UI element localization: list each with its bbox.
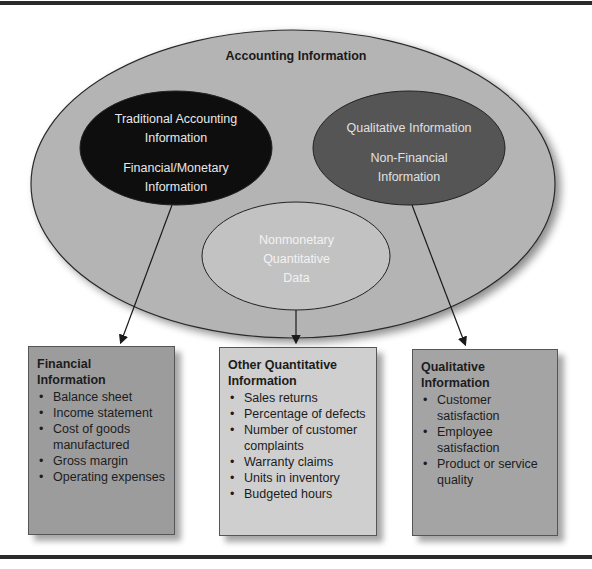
financial-monetary-line-1: Financial/Monetary [86, 159, 266, 178]
list-item: Percentage of defects [228, 406, 370, 422]
traditional-line-1: Traditional Accounting [86, 110, 266, 129]
list-item: Units in inventory [228, 470, 370, 486]
financial-monetary-line-2: Information [86, 178, 266, 197]
list-item: Customer satisfaction [421, 392, 551, 424]
traditional-line-2: Information [86, 129, 266, 148]
qualitative-ellipse-text: Qualitative Information Non-Financial In… [318, 119, 500, 187]
qualitative-line-1: Qualitative Information [318, 119, 500, 138]
list-item: Operating expenses [37, 469, 168, 485]
box-title: Qualitative Information [421, 359, 551, 391]
list-item: Number of customer complaints [228, 422, 370, 454]
list-item: Warranty claims [228, 454, 370, 470]
list-item: Budgeted hours [228, 486, 370, 502]
list-item: Balance sheet [37, 389, 168, 405]
box-title: Financial Information [37, 356, 168, 388]
box-other-quantitative-information: Other Quantitative Information Sales ret… [219, 347, 377, 536]
box-title: Other Quantitative Information [228, 357, 370, 389]
box-item-list: Balance sheet Income statement Cost of g… [37, 389, 168, 485]
box-financial-information: Financial Information Balance sheet Inco… [28, 346, 175, 535]
non-financial-line-1: Non-Financial [318, 149, 500, 168]
box-title-line: Information [228, 373, 370, 389]
list-item: Cost of goods manufactured [37, 421, 168, 453]
nonmonetary-line-2: Quantitative [214, 250, 379, 269]
traditional-ellipse-text: Traditional Accounting Information Finan… [86, 110, 266, 197]
box-item-list: Sales returns Percentage of defects Numb… [228, 390, 370, 502]
box-title-line: Qualitative [421, 359, 551, 375]
box-item-list: Customer satisfaction Employee satisfact… [421, 392, 551, 488]
nonmonetary-ellipse-text: Nonmonetary Quantitative Data [214, 231, 379, 288]
box-title-line: Information [421, 375, 551, 391]
box-qualitative-information: Qualitative Information Customer satisfa… [412, 349, 558, 536]
box-title-line: Other Quantitative [228, 357, 370, 373]
nonmonetary-line-3: Data [214, 269, 379, 288]
nonmonetary-line-1: Nonmonetary [214, 231, 379, 250]
list-item: Product or service quality [421, 456, 551, 488]
list-item: Employee satisfaction [421, 424, 551, 456]
outer-ellipse-title: Accounting Information [196, 47, 396, 66]
bottom-rule [0, 555, 592, 559]
box-title-line: Financial [37, 356, 168, 372]
non-financial-line-2: Information [318, 168, 500, 187]
list-item: Gross margin [37, 453, 168, 469]
box-title-line: Information [37, 372, 168, 388]
list-item: Sales returns [228, 390, 370, 406]
list-item: Income statement [37, 405, 168, 421]
